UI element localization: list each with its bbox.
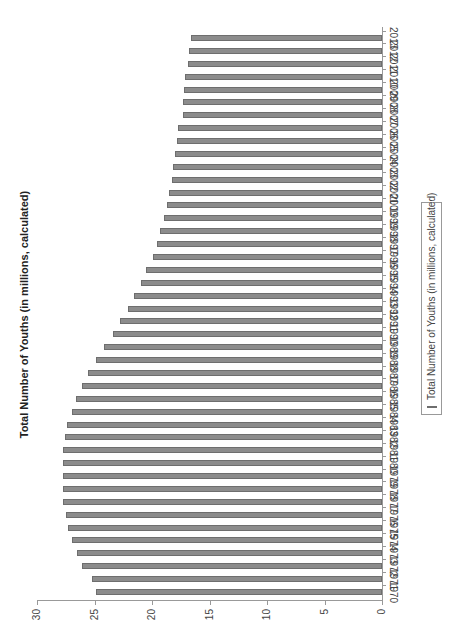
- category-tick: [382, 147, 386, 148]
- value-tick: [95, 601, 96, 605]
- bar-1985: [76, 396, 382, 402]
- value-tick: [37, 601, 38, 605]
- value-tick-label: 30: [31, 609, 42, 629]
- bar-1976: [66, 512, 382, 518]
- plot-area: 0510152025301970197119721973197419751976…: [0, 0, 451, 629]
- bar-1975: [68, 525, 382, 531]
- category-tick: [382, 95, 386, 96]
- category-tick: [382, 275, 386, 276]
- category-tick: [382, 546, 386, 547]
- category-tick: [382, 43, 386, 44]
- category-tick: [382, 288, 386, 289]
- bar-2003: [173, 164, 382, 170]
- bar-2009: [184, 87, 382, 93]
- value-tick-label: 10: [261, 609, 272, 629]
- bar-2002: [172, 177, 382, 183]
- category-tick: [382, 456, 386, 457]
- category-tick: [382, 250, 386, 251]
- bar-2011: [188, 61, 382, 67]
- bar-1983: [67, 422, 382, 428]
- bar-2008: [183, 99, 382, 105]
- value-tick-label: 20: [146, 609, 157, 629]
- bar-2000: [167, 203, 382, 209]
- bar-2007: [183, 112, 382, 118]
- bar-1986: [82, 383, 382, 389]
- legend-swatch: [427, 406, 437, 408]
- bar-1972: [82, 563, 382, 569]
- bar-1992: [128, 306, 382, 312]
- bar-1974: [72, 537, 383, 543]
- bar-2010: [185, 74, 382, 80]
- category-tick: [382, 185, 386, 186]
- category-tick: [382, 31, 386, 32]
- bar-2013: [191, 35, 382, 41]
- category-tick: [382, 82, 386, 83]
- category-tick: [382, 443, 386, 444]
- legend: Total Number of Youths (in millions, cal…: [421, 202, 442, 415]
- category-tick-label: 2013: [388, 23, 399, 53]
- bar-2012: [189, 48, 382, 54]
- category-tick: [382, 211, 386, 212]
- bar-1997: [157, 241, 382, 247]
- chart-stage: Total Number of Youths (in millions, cal…: [0, 0, 451, 629]
- value-tick: [152, 601, 153, 605]
- category-tick: [382, 134, 386, 135]
- category-tick: [382, 585, 386, 586]
- category-tick: [382, 430, 386, 431]
- value-tick-label: 0: [376, 609, 387, 629]
- bar-1970: [96, 589, 382, 595]
- category-tick: [382, 507, 386, 508]
- category-tick: [382, 314, 386, 315]
- bar-1980: [63, 460, 382, 466]
- bar-1999: [164, 215, 383, 221]
- category-tick: [382, 378, 386, 379]
- bar-2005: [177, 138, 382, 144]
- bar-1971: [92, 576, 382, 582]
- bar-1996: [153, 254, 382, 260]
- value-tick: [325, 601, 326, 605]
- bar-2006: [178, 125, 382, 131]
- category-tick: [382, 237, 386, 238]
- category-tick: [382, 340, 386, 341]
- category-tick: [382, 417, 386, 418]
- bar-1990: [113, 331, 382, 337]
- bar-2001: [169, 190, 382, 196]
- category-tick: [382, 481, 386, 482]
- category-tick: [382, 404, 386, 405]
- value-tick: [382, 601, 383, 605]
- category-tick: [382, 224, 386, 225]
- category-tick: [382, 108, 386, 109]
- category-tick: [382, 520, 386, 521]
- category-tick: [382, 327, 386, 328]
- bar-1994: [141, 280, 383, 286]
- bar-2004: [175, 151, 382, 157]
- category-tick: [382, 353, 386, 354]
- bar-1973: [77, 550, 382, 556]
- category-tick: [382, 391, 386, 392]
- category-tick: [382, 533, 386, 534]
- legend-label: Total Number of Youths (in millions, cal…: [426, 193, 437, 400]
- value-tick-label: 5: [319, 609, 330, 629]
- category-tick: [382, 198, 386, 199]
- value-tick: [267, 601, 268, 605]
- category-tick: [382, 301, 386, 302]
- value-tick: [210, 601, 211, 605]
- bar-1995: [146, 267, 382, 273]
- bar-1984: [72, 409, 383, 415]
- bar-1988: [96, 357, 382, 363]
- category-tick: [382, 572, 386, 573]
- category-tick: [382, 121, 386, 122]
- category-tick: [382, 559, 386, 560]
- category-tick: [382, 494, 386, 495]
- category-tick: [382, 262, 386, 263]
- category-tick: [382, 159, 386, 160]
- bar-1979: [63, 473, 382, 479]
- category-tick: [382, 469, 386, 470]
- bar-1987: [88, 370, 382, 376]
- bar-1978: [63, 486, 382, 492]
- bar-1998: [160, 228, 382, 234]
- category-tick: [382, 69, 386, 70]
- value-tick-label: 15: [204, 609, 215, 629]
- category-tick: [382, 56, 386, 57]
- category-tick: [382, 172, 386, 173]
